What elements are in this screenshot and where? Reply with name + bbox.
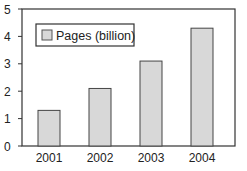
- bar-2004: [191, 28, 213, 146]
- x-axis: 2001200220032004: [36, 151, 216, 165]
- y-tick-label: 2: [4, 85, 11, 99]
- y-tick-label: 1: [4, 112, 11, 126]
- legend-label: Pages (billion): [56, 29, 135, 43]
- bar-2001: [38, 110, 60, 146]
- bar-chart: 012345 2001200220032004 Pages (billion): [0, 0, 247, 171]
- x-tick-label: 2003: [138, 151, 165, 165]
- y-tick-label: 3: [4, 57, 11, 71]
- bar-2002: [89, 88, 111, 146]
- legend: Pages (billion): [36, 24, 135, 46]
- y-axis: 012345: [4, 3, 22, 154]
- y-tick-label: 4: [4, 30, 11, 44]
- y-tick-label: 0: [4, 140, 11, 154]
- bar-2003: [140, 61, 162, 146]
- x-tick-label: 2004: [189, 151, 216, 165]
- legend-swatch-icon: [42, 30, 52, 40]
- x-tick-label: 2002: [87, 151, 114, 165]
- y-tick-label: 5: [4, 3, 11, 17]
- x-tick-label: 2001: [36, 151, 63, 165]
